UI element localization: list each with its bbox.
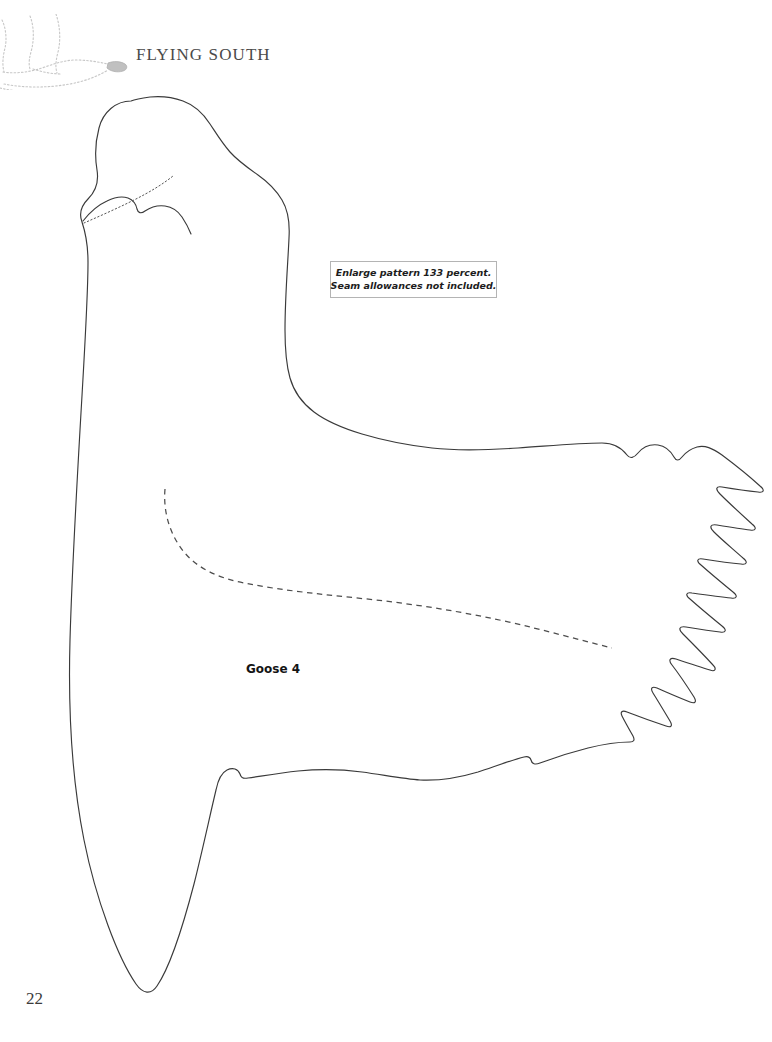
pattern-page: FLYING SOUTH Enlarge pattern 133 percent… bbox=[0, 0, 772, 1042]
page-number: 22 bbox=[26, 989, 43, 1009]
pattern-piece-label: Goose 4 bbox=[246, 662, 300, 676]
goose-body-outline-path bbox=[70, 97, 764, 993]
enlarge-note-box: Enlarge pattern 133 percent. Seam allowa… bbox=[330, 261, 497, 298]
note-line-seam: Seam allowances not included. bbox=[331, 280, 497, 292]
goose-cheek-patch-line-icon bbox=[83, 197, 191, 234]
wing-placement-dashed-line-icon bbox=[165, 489, 612, 648]
goose-pattern-outline-icon bbox=[0, 0, 772, 1042]
note-line-enlarge: Enlarge pattern 133 percent. bbox=[336, 267, 492, 279]
